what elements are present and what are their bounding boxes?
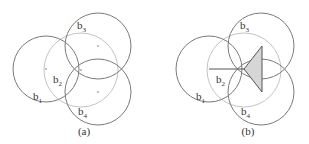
label-b4: b4 (241, 105, 251, 120)
center-dot-b3 (97, 45, 98, 46)
caption-a: (a) (78, 125, 91, 138)
label-b2: b2 (53, 73, 63, 88)
label-b3: b3 (240, 19, 250, 34)
panel-b: b1 b2 b3 b4 (b) (176, 13, 294, 138)
diagram-canvas: b1 b2 b3 b4 (a) b1 b2 b3 b4 (b) (0, 0, 309, 144)
circle-b2 (207, 33, 281, 107)
label-b1: b1 (33, 90, 43, 105)
label-b2: b2 (216, 73, 226, 88)
center-dot-b2 (80, 69, 81, 70)
center-dot-b1 (45, 68, 46, 69)
panel-a: b1 b2 b3 b4 (a) (13, 13, 131, 138)
label-b4: b4 (78, 105, 88, 120)
label-b3: b3 (77, 19, 87, 34)
label-b1: b1 (196, 90, 206, 105)
center-dot-b4 (97, 91, 98, 92)
caption-b: (b) (242, 125, 255, 138)
shaded-triangle (244, 46, 262, 92)
